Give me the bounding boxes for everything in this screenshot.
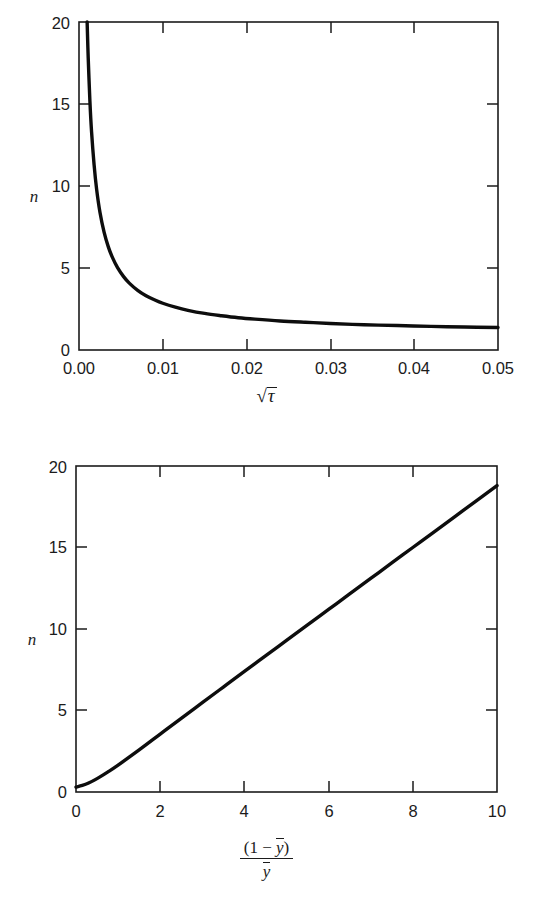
- chart-top-sqrt-tau: 0 5 10 15 20 0.00 0.01 0.02 0.03 0.04 0.…: [0, 0, 533, 460]
- radicand-tau: τ: [268, 385, 275, 406]
- plot-frame-top: [79, 22, 498, 350]
- y-tick-label-bottom-5: 5: [58, 701, 67, 719]
- sqrt-tau-expression: √τ: [256, 386, 276, 405]
- radical-overbar: [267, 387, 276, 388]
- plot-frame-bottom: [76, 466, 497, 792]
- fraction-bar: [240, 858, 293, 859]
- y-ticks-bottom-left: [76, 547, 87, 710]
- x-tick-label-bottom-2: 4: [239, 802, 248, 820]
- radical-sign-icon: √: [256, 385, 266, 406]
- y-tick-label-top-15: 15: [52, 95, 70, 113]
- y-tick-label-top-20: 20: [52, 14, 70, 32]
- y-tick-label-top-10: 10: [52, 177, 70, 195]
- x-tick-label-bottom-1: 2: [155, 802, 164, 820]
- numerator-ybar: y: [276, 838, 284, 856]
- x-ticks-top-upper: [163, 22, 414, 33]
- y-tick-label-bottom-0: 0: [58, 783, 67, 801]
- x-tick-label-top-4: 0.04: [398, 359, 430, 377]
- x-tick-label-top-5: 0.05: [482, 359, 514, 377]
- y-ticks-top-right: [487, 104, 498, 268]
- x-tick-label-top-1: 0.01: [147, 359, 179, 377]
- data-curve-top: [87, 22, 498, 328]
- y-tick-label-bottom-10: 10: [49, 620, 67, 638]
- fraction-numerator: (1 − y): [240, 838, 293, 857]
- x-ticks-top: [163, 339, 414, 350]
- x-tick-label-bottom-5: 10: [488, 802, 506, 820]
- x-tick-label-bottom-3: 6: [324, 802, 333, 820]
- x-tick-label-top-3: 0.03: [315, 359, 347, 377]
- y-tick-label-bottom-20: 20: [49, 460, 67, 476]
- x-tick-label-bottom-0: 0: [71, 802, 80, 820]
- x-ticks-bottom-upper: [160, 466, 413, 477]
- chart-bottom-svg: 0 5 10 15 20 0 2 4 6 8 10 n: [0, 460, 533, 860]
- x-tick-label-top-0: 0.00: [63, 359, 95, 377]
- y-ticks-top-left: [79, 104, 90, 268]
- chart-bottom-ratio: 0 5 10 15 20 0 2 4 6 8 10 n (1 − y) y: [0, 460, 533, 918]
- ratio-fraction: (1 − y) y: [240, 838, 293, 880]
- y-tick-label-top-0: 0: [61, 341, 70, 359]
- x-axis-title-bottom: (1 − y) y: [0, 838, 533, 880]
- x-tick-label-top-2: 0.02: [231, 359, 263, 377]
- y-tick-label-bottom-15: 15: [49, 538, 67, 556]
- numerator-open: (1 −: [244, 838, 276, 857]
- fraction-denominator: y: [240, 860, 293, 880]
- x-axis-title-top: √τ: [0, 386, 533, 405]
- denominator-ybar: y: [263, 862, 271, 880]
- y-axis-title-top: n: [30, 187, 39, 206]
- data-curve-bottom: [76, 486, 497, 788]
- numerator-close: ): [284, 838, 290, 857]
- y-tick-label-top-5: 5: [61, 259, 70, 277]
- y-ticks-bottom-right: [486, 547, 497, 710]
- x-tick-label-bottom-4: 8: [408, 802, 417, 820]
- y-axis-title-bottom: n: [28, 630, 37, 649]
- x-ticks-bottom: [160, 781, 413, 792]
